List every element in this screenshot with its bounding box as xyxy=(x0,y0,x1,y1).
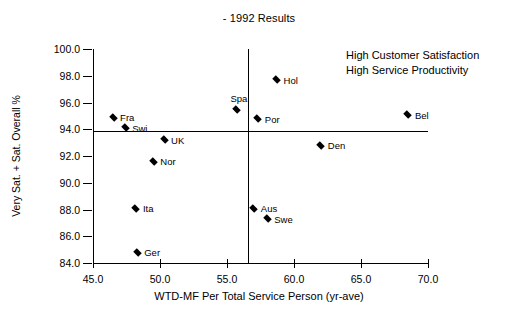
x-tick-label: 45.0 xyxy=(83,273,103,285)
x-tick-mark xyxy=(361,259,362,268)
plot-area: 84.086.088.090.092.094.096.098.0100.045.… xyxy=(93,49,428,263)
y-tick-mark xyxy=(83,156,92,157)
y-tick-label: 94.0 xyxy=(60,123,80,135)
y-tick-mark xyxy=(83,49,92,50)
y-tick-label: 88.0 xyxy=(60,204,80,216)
annotation-line-2: High Service Productivity xyxy=(346,63,479,78)
diamond-marker-icon xyxy=(317,141,326,150)
data-point-label: Swi xyxy=(132,124,147,134)
data-point-label: UK xyxy=(171,136,184,146)
y-tick-label: 86.0 xyxy=(60,230,80,242)
diamond-marker-icon xyxy=(263,215,272,224)
annotation-line-1: High Customer Satisfaction xyxy=(346,48,479,63)
y-tick-label: 96.0 xyxy=(60,97,80,109)
y-tick-mark xyxy=(83,236,92,237)
x-tick-mark xyxy=(93,259,94,268)
data-point-label: Ita xyxy=(143,204,154,214)
x-tick-mark xyxy=(294,259,295,268)
y-tick-mark xyxy=(83,129,92,130)
data-point-label: Den xyxy=(328,141,345,151)
chart-figure: - 1992 Results 84.086.088.090.092.094.09… xyxy=(0,0,518,317)
x-axis-spine xyxy=(93,263,429,264)
y-tick-label: 98.0 xyxy=(60,70,80,82)
x-axis-title: WTD-MF Per Total Service Person (yr-ave) xyxy=(0,290,518,302)
diamond-marker-icon xyxy=(254,114,263,123)
x-tick-mark xyxy=(227,259,228,268)
x-tick-label: 50.0 xyxy=(150,273,170,285)
y-tick-mark xyxy=(83,103,92,104)
diamond-marker-icon xyxy=(404,110,413,119)
x-tick-label: 55.0 xyxy=(217,273,237,285)
data-point-label: Bel xyxy=(415,111,429,121)
data-point-label: Nor xyxy=(160,157,175,167)
diamond-marker-icon xyxy=(160,136,169,145)
y-tick-label: 90.0 xyxy=(60,177,80,189)
x-tick-mark xyxy=(160,259,161,268)
y-tick-label: 92.0 xyxy=(60,150,80,162)
y-tick-mark xyxy=(83,76,92,77)
diamond-marker-icon xyxy=(109,113,118,122)
diamond-marker-icon xyxy=(132,204,141,213)
y-tick-mark xyxy=(83,263,92,264)
data-point-label: Swe xyxy=(274,215,292,225)
x-tick-label: 65.0 xyxy=(351,273,371,285)
y-axis-title: Very Sat. + Sat. Overall % xyxy=(10,46,22,266)
data-point-label: Ger xyxy=(144,248,160,258)
diamond-marker-icon xyxy=(250,204,259,213)
diamond-marker-icon xyxy=(272,75,281,84)
data-point-label: Aus xyxy=(261,204,277,214)
diamond-marker-icon xyxy=(149,157,158,166)
y-tick-mark xyxy=(83,210,92,211)
diamond-marker-icon xyxy=(133,248,142,257)
x-tick-label: 70.0 xyxy=(418,273,438,285)
vertical-reference-line xyxy=(248,49,249,263)
data-point-label: Spa xyxy=(230,94,247,104)
y-tick-label: 100.0 xyxy=(54,43,80,55)
y-tick-label: 84.0 xyxy=(60,257,80,269)
data-point-label: Hol xyxy=(284,76,298,86)
y-tick-mark xyxy=(83,183,92,184)
chart-title: - 1992 Results xyxy=(0,12,518,24)
x-tick-label: 60.0 xyxy=(284,273,304,285)
diamond-marker-icon xyxy=(232,105,241,114)
x-tick-mark xyxy=(428,259,429,268)
data-point-label: Por xyxy=(265,115,280,125)
chart-annotation: High Customer Satisfaction High Service … xyxy=(346,48,479,77)
data-point-label: Fra xyxy=(120,113,134,123)
